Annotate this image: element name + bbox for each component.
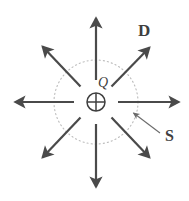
gaussian-surface-label: S [165,128,174,144]
flux-arrow-up-left [43,47,81,87]
flux-arrow-up-right [112,48,150,87]
flux-arrow-down-left [43,118,81,158]
charge-label: Q [98,76,108,90]
surface-leader-arrow [134,113,161,133]
flux-arrow-down-right [112,118,150,158]
figure-canvas [0,0,189,201]
gauss-law-figure: D S Q [0,0,189,201]
flux-density-label: D [138,22,150,39]
circled-plus-symbol [87,93,105,111]
